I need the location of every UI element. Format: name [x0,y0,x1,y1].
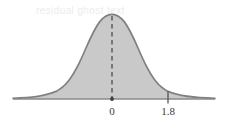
tick-label-value: 1.8 [150,106,186,117]
tick-marker-zero [110,97,114,101]
tick-label-zero: 0 [95,106,129,117]
normal-curve-figure: residual ghost text 0 1.8 [0,0,225,128]
normal-curve-fill [13,15,215,99]
